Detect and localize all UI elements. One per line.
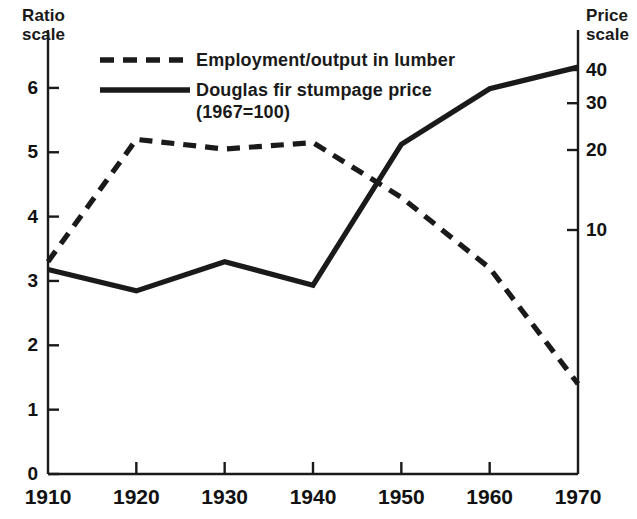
tick-marks [48,70,578,474]
right-tick-label-30: 30 [586,93,620,112]
x-tick-label-1940: 1940 [277,486,349,507]
x-tick-label-1910: 1910 [12,486,84,507]
left-tick-label-2: 2 [4,335,38,354]
right-tick-label-40: 40 [586,60,620,79]
x-tick-label-1970: 1970 [542,486,614,507]
x-tick-label-1930: 1930 [189,486,261,507]
left-tick-label-4: 4 [4,207,38,226]
axis-frame [48,30,578,474]
left-tick-label-0: 0 [4,464,38,483]
left-tick-label-5: 5 [4,142,38,161]
series-line-stumpage-price [48,67,578,291]
right-tick-label-10: 10 [586,220,620,239]
left-tick-label-1: 1 [4,400,38,419]
x-tick-label-1950: 1950 [365,486,437,507]
left-tick-label-6: 6 [4,78,38,97]
legend-swatches [100,60,190,90]
series-lines [48,67,578,384]
left-tick-label-3: 3 [4,271,38,290]
x-tick-label-1920: 1920 [100,486,172,507]
chart-figure: Ratioscale Pricescale Employment/output … [0,0,637,519]
series-line-employment-output [48,139,578,384]
right-tick-label-20: 20 [586,140,620,159]
plot-area [0,0,637,519]
x-tick-label-1960: 1960 [454,486,526,507]
